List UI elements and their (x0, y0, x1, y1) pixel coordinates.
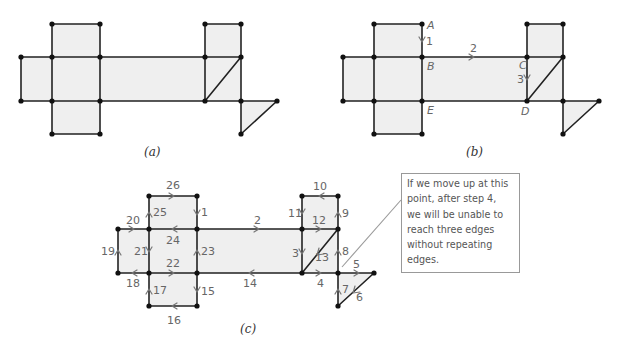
panel-c: 1 2 3 4 5 6 7 8 9 10 11 12 13 14 15 16 1… (101, 179, 377, 327)
step-label-21: 21 (134, 245, 148, 258)
step-label-16: 16 (167, 314, 181, 327)
vertex-label-b: B (427, 60, 435, 73)
step-label-19: 19 (101, 245, 115, 258)
vertex-label-a: A (426, 19, 435, 32)
step-label-20: 20 (126, 214, 140, 227)
panel-b-caption: (b) (466, 145, 483, 159)
step-label-6: 6 (356, 291, 363, 304)
step-label-17: 17 (153, 284, 167, 297)
step-label-10: 10 (313, 180, 327, 193)
step-label-4: 4 (317, 277, 324, 290)
step-label-13: 13 (315, 251, 329, 264)
step-label-7: 7 (342, 283, 349, 296)
step-label-24: 24 (166, 234, 180, 247)
step-label-1: 1 (426, 35, 433, 48)
step-label-12: 12 (312, 214, 326, 227)
callout-line-1: If we move up at this (407, 176, 519, 191)
step-label-25: 25 (153, 206, 167, 219)
panel-a (18, 21, 279, 136)
callout-line-3: we will be unable to (407, 207, 519, 222)
vertex-label-c: C (519, 59, 527, 72)
step-label-22: 22 (166, 257, 180, 270)
vertex-label-e: E (427, 104, 434, 117)
step-label-18: 18 (126, 277, 140, 290)
panel-a-caption: (a) (144, 145, 161, 159)
step-label-2: 2 (470, 42, 477, 55)
step-label-9: 9 (342, 207, 349, 220)
step-label-3: 3 (292, 247, 299, 260)
euler-path-figure: (a) A B C D E 1 2 3 (b) (0, 0, 617, 353)
step-label-15: 15 (201, 285, 215, 298)
step-label-8: 8 (342, 245, 349, 258)
step-label-23: 23 (201, 245, 215, 258)
callout-leader-line (342, 200, 401, 267)
panel-c-caption: (c) (240, 322, 256, 336)
callout-note: If we move up at this point, after step … (401, 173, 520, 273)
callout-line-4: reach three edges (407, 222, 519, 237)
step-label-11: 11 (288, 207, 302, 220)
step-label-3: 3 (517, 73, 524, 86)
step-label-26: 26 (166, 179, 180, 192)
step-label-5: 5 (353, 258, 360, 271)
callout-line-5: without repeating (407, 237, 519, 252)
callout-line-6: edges. (407, 252, 519, 267)
step-label-2: 2 (254, 214, 261, 227)
step-label-1: 1 (201, 206, 208, 219)
step-label-14: 14 (243, 277, 257, 290)
vertex-label-d: D (521, 105, 529, 118)
callout-line-2: point, after step 4, (407, 191, 519, 206)
panel-b: A B C D E 1 2 3 (340, 19, 601, 137)
